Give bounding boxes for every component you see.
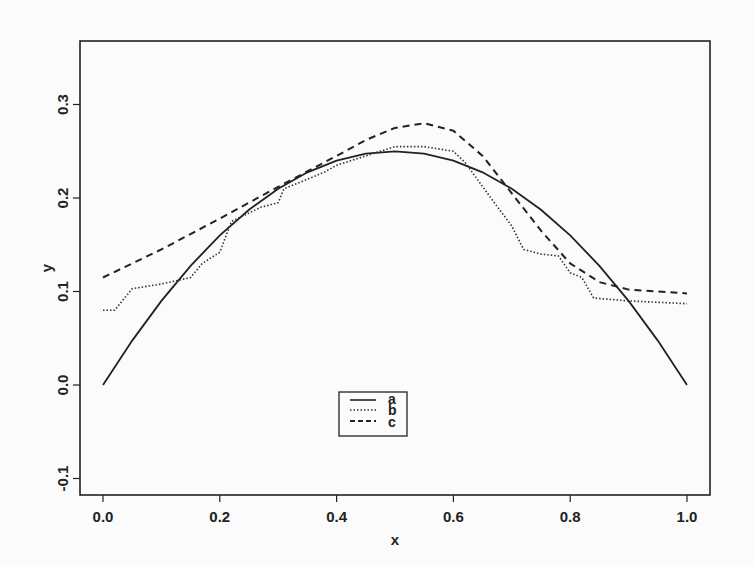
y-axis-ticks: -0.10.00.10.20.3 [54, 94, 80, 491]
x-tick-label: 1.0 [677, 508, 698, 525]
x-axis-ticks: 0.00.20.40.60.81.0 [93, 495, 698, 525]
y-tick-label: 0.3 [54, 94, 71, 115]
legend-box [339, 392, 407, 436]
x-tick-label: 0.6 [443, 508, 464, 525]
legend: a b c [339, 391, 407, 436]
series-c-line [103, 123, 687, 293]
y-tick-label: 0.2 [54, 188, 71, 209]
x-tick-label: 0.8 [560, 508, 581, 525]
y-tick-label: 0.0 [54, 375, 71, 396]
legend-label-c: c [388, 414, 396, 430]
y-axis-label: y [38, 263, 55, 272]
y-tick-label: -0.1 [54, 466, 71, 492]
x-axis-label: x [391, 531, 400, 548]
series-layer [103, 123, 687, 385]
x-tick-label: 0.0 [93, 508, 114, 525]
y-tick-label: 0.1 [54, 281, 71, 302]
x-tick-label: 0.2 [209, 508, 230, 525]
line-chart: 0.00.20.40.60.81.0 -0.10.00.10.20.3 x y … [0, 0, 753, 567]
series-b-line [103, 147, 687, 311]
x-tick-label: 0.4 [326, 508, 348, 525]
series-a-line [103, 151, 687, 385]
